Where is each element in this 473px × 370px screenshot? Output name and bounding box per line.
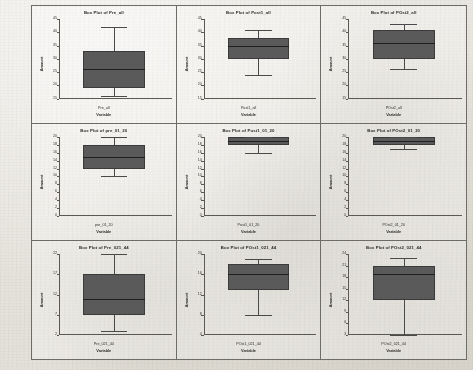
- y-axis-tick-label: 15: [198, 97, 202, 101]
- y-axis-title: Amount: [330, 57, 334, 71]
- median-line: [228, 46, 289, 47]
- panel-title: Box Plot of Pre_all: [32, 10, 176, 15]
- y-axis-tick-label: 2: [55, 207, 57, 211]
- panel-title: Box Plot of pre_01_20: [32, 128, 176, 133]
- box-plot-glyph: [348, 19, 459, 99]
- box-iqr: [373, 266, 435, 301]
- y-axis-title: Amount: [40, 175, 44, 189]
- y-axis-tick-label: 16: [53, 151, 57, 155]
- lower-whisker: [114, 169, 115, 177]
- y-axis-tick-label: 25: [342, 70, 346, 74]
- plot-area: 15202530354045: [59, 19, 169, 99]
- y-axis-tick-label: 4: [55, 199, 57, 203]
- lower-whisker: [404, 59, 405, 70]
- y-axis-tick-label: 12: [342, 167, 346, 171]
- boxplot-panel-pre_all: Box Plot of Pre_allAmount15202530354045P…: [32, 6, 177, 124]
- y-axis-tick-label: 40: [53, 30, 57, 34]
- x-axis-title: Variable: [241, 348, 256, 353]
- upper-whisker-cap: [245, 259, 271, 260]
- upper-whisker: [258, 30, 259, 38]
- median-line: [228, 141, 289, 142]
- upper-whisker-cap: [390, 137, 417, 138]
- x-axis-title: Variable: [386, 229, 401, 234]
- y-axis-tick-label: 12: [198, 293, 202, 297]
- x-axis-category-label: POst2_01_20: [382, 223, 405, 227]
- y-axis-tick-label: 4: [200, 199, 202, 203]
- y-axis-tick-label: 30: [342, 57, 346, 61]
- y-axis-tick-label: 40: [198, 30, 202, 34]
- y-axis-tick-label: 45: [198, 17, 202, 21]
- lower-whisker: [258, 59, 259, 75]
- lower-whisker: [258, 145, 259, 153]
- y-axis-tick-label: 0: [344, 215, 346, 219]
- y-axis-tick-label: 16: [342, 151, 346, 155]
- y-axis-tick-label: 4: [344, 199, 346, 203]
- median-line: [373, 274, 435, 275]
- lower-whisker: [404, 300, 405, 335]
- y-axis-tick-label: 20: [198, 253, 202, 257]
- lower-whisker: [258, 290, 259, 315]
- y-axis-tick-label: 45: [53, 17, 57, 21]
- y-axis-tick-label: 15: [53, 97, 57, 101]
- upper-whisker-cap: [390, 258, 417, 259]
- boxplot-panel-post1_all: Box Plot of Post1_allAmount1520253035404…: [177, 6, 322, 124]
- x-axis-category-label: Pre_all: [98, 106, 109, 110]
- boxplot-panel-post1_021_44: Box Plot of POst1_021_44Amount48121620PO…: [177, 241, 322, 359]
- y-axis-tick-label: 18: [342, 143, 346, 147]
- y-axis-tick-label: 2: [200, 207, 202, 211]
- box-plot-glyph: [59, 137, 169, 217]
- y-axis-tick-label: 30: [198, 57, 202, 61]
- x-axis-category-label: Pre_021_44: [94, 342, 114, 346]
- y-axis-tick-label: 8: [200, 183, 202, 187]
- plot-area: 02468101214161820: [348, 137, 459, 217]
- y-axis-tick-label: 6: [55, 191, 57, 195]
- median-line: [373, 141, 435, 142]
- boxplot-panel-pre_021_44: Box Plot of Pre_021_44Amount27121722Pre_…: [32, 241, 177, 359]
- y-axis-tick-label: 4: [200, 333, 202, 337]
- plot-area: 02468101214161820: [59, 137, 169, 217]
- upper-whisker: [114, 137, 115, 145]
- upper-whisker-cap: [101, 137, 127, 138]
- y-axis-tick-label: 24: [342, 253, 346, 257]
- panel-title: Box Plot of POst2_01_20: [321, 128, 466, 133]
- median-line: [373, 43, 435, 44]
- boxplot-panel-post2_01_20: Box Plot of POst2_01_20Amount02468101214…: [321, 124, 466, 242]
- x-axis-category-label: POst1_021_44: [236, 342, 261, 346]
- y-axis-tick-label: 22: [53, 253, 57, 257]
- y-axis-tick-label: 7: [55, 313, 57, 317]
- boxplot-panel-post1_01_20: Box Plot of Post1_01_20Amount02468101214…: [177, 124, 322, 242]
- y-axis-tick-label: 2: [55, 333, 57, 337]
- y-axis-tick-label: 20: [198, 135, 202, 139]
- y-axis-tick-label: 21: [342, 264, 346, 268]
- lower-whisker-cap: [245, 75, 271, 76]
- y-axis-tick-label: 35: [342, 44, 346, 48]
- lower-whisker-cap: [390, 149, 417, 150]
- y-axis-title: Amount: [330, 293, 334, 307]
- box-iqr: [83, 274, 144, 314]
- y-axis-title: Amount: [330, 175, 334, 189]
- x-axis-title: Variable: [241, 229, 256, 234]
- scanned-page: Box Plot of Pre_allAmount15202530354045P…: [0, 0, 473, 370]
- panel-title: Box Plot of POst1_021_44: [177, 245, 321, 250]
- y-axis-tick-label: 6: [344, 322, 346, 326]
- plot-area: 48121620: [204, 254, 314, 335]
- plot-area: 3691215182124: [348, 254, 459, 335]
- y-axis-tick-label: 12: [198, 167, 202, 171]
- panel-title: Box Plot of POst2_021_44: [321, 245, 466, 250]
- y-axis-tick-label: 16: [198, 273, 202, 277]
- y-axis-tick-label: 35: [53, 44, 57, 48]
- y-axis-tick-label: 15: [342, 287, 346, 291]
- lower-whisker-cap: [245, 315, 271, 316]
- panel-title: Box Plot of POst2_all: [321, 10, 466, 15]
- y-axis-tick-label: 15: [342, 97, 346, 101]
- box-plot-glyph: [59, 254, 169, 335]
- y-axis-tick-label: 20: [53, 135, 57, 139]
- y-axis-tick-label: 2: [344, 207, 346, 211]
- y-axis-tick-label: 45: [342, 17, 346, 21]
- y-axis-title: Amount: [185, 175, 189, 189]
- upper-whisker: [404, 258, 405, 266]
- y-axis-tick-label: 30: [53, 57, 57, 61]
- y-axis-tick-label: 14: [53, 159, 57, 163]
- panel-title: Box Plot of Post1_01_20: [177, 128, 321, 133]
- plot-area: 15202530354045: [348, 19, 459, 99]
